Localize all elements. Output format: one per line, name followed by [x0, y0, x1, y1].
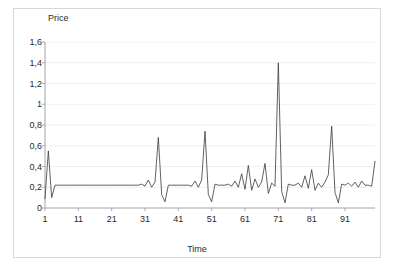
- x-tick-label: 31: [140, 214, 150, 224]
- x-tick-label: 1: [42, 214, 47, 224]
- x-tick-label: 61: [240, 214, 250, 224]
- x-tick-label: 51: [207, 214, 217, 224]
- x-tick-label: 71: [273, 214, 283, 224]
- x-axis-tick-labels: 1112131415161718191: [0, 0, 394, 268]
- x-tick-label: 21: [107, 214, 117, 224]
- x-tick-label: 91: [340, 214, 350, 224]
- x-tick-label: 81: [307, 214, 317, 224]
- x-tick-label: 11: [74, 214, 83, 224]
- x-tick-label: 41: [173, 214, 183, 224]
- x-axis-title: Time: [0, 244, 394, 254]
